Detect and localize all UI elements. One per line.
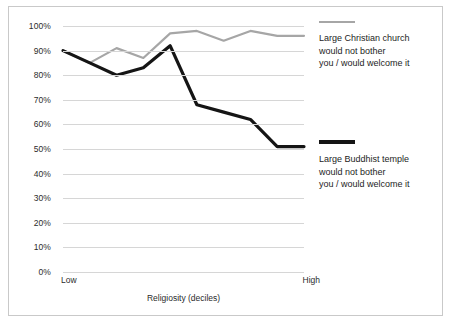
gridline xyxy=(63,247,304,248)
y-axis-tick-label: 0% xyxy=(39,267,52,277)
y-axis-tick-label: 80% xyxy=(34,70,51,80)
y-axis: 100%90%80%70%60%50%40%30%20%10%0% xyxy=(9,26,57,272)
y-axis-tick-label: 60% xyxy=(34,119,51,129)
legend-swatch-christian-icon xyxy=(319,21,355,23)
gridline xyxy=(63,272,304,273)
legend-label-christian: Large Christian church would not bother … xyxy=(319,32,441,70)
gridline xyxy=(63,100,304,101)
y-axis-tick-label: 30% xyxy=(34,193,51,203)
legend-label-buddhist: Large Buddhist temple would not bother y… xyxy=(319,153,441,191)
gridline xyxy=(63,198,304,199)
y-axis-tick-label: 10% xyxy=(34,242,51,252)
series-line-buddhist xyxy=(63,46,304,147)
series-line-christian xyxy=(63,31,304,63)
legend-item-buddhist: Large Buddhist temple would not bother y… xyxy=(319,140,441,191)
plot-area xyxy=(63,26,304,272)
x-axis-label-high: High xyxy=(303,275,320,285)
x-axis-label-low: Low xyxy=(61,275,77,285)
gridline xyxy=(63,75,304,76)
gridline xyxy=(63,149,304,150)
gridline xyxy=(63,223,304,224)
x-axis: Low High xyxy=(63,275,304,289)
y-axis-tick-label: 20% xyxy=(34,218,51,228)
x-axis-title: Religiosity (deciles) xyxy=(63,293,304,303)
gridline xyxy=(63,174,304,175)
y-axis-tick-label: 70% xyxy=(34,95,51,105)
y-axis-tick-label: 50% xyxy=(34,144,51,154)
legend-item-christian: Large Christian church would not bother … xyxy=(319,21,441,70)
y-axis-tick-label: 90% xyxy=(34,46,51,56)
chart-frame: 100%90%80%70%60%50%40%30%20%10%0% Low Hi… xyxy=(8,6,443,316)
legend-swatch-buddhist-icon xyxy=(319,140,355,144)
gridline xyxy=(63,26,304,27)
y-axis-tick-label: 40% xyxy=(34,169,51,179)
gridline xyxy=(63,124,304,125)
gridline xyxy=(63,51,304,52)
y-axis-tick-label: 100% xyxy=(29,21,51,31)
